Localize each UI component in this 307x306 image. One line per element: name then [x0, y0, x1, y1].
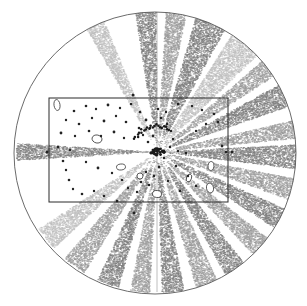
point-marker [148, 184, 151, 187]
point-marker [115, 115, 117, 117]
point-marker [123, 137, 125, 139]
point-marker [60, 132, 63, 135]
radiant-arc-dot [146, 126, 149, 129]
point-marker [88, 130, 91, 133]
point-marker [139, 111, 142, 114]
point-marker [169, 146, 172, 149]
radiant-core-dot [157, 154, 159, 156]
point-marker [177, 103, 180, 106]
point-marker [157, 108, 160, 111]
radiant-arc-dot [153, 125, 156, 128]
blob-marker [53, 99, 60, 111]
point-marker [95, 108, 97, 110]
point-marker [136, 191, 138, 193]
blob-marker [137, 173, 143, 179]
point-marker [177, 150, 179, 152]
point-marker [69, 149, 71, 151]
point-marker [145, 171, 147, 173]
point-marker [113, 131, 116, 134]
point-marker [140, 181, 143, 184]
point-marker [152, 135, 155, 138]
point-marker [195, 130, 197, 132]
radiant-core-dot [158, 150, 160, 152]
point-marker [195, 185, 198, 188]
point-marker [133, 212, 136, 215]
point-marker [130, 103, 133, 106]
point-marker [72, 188, 74, 190]
point-marker [179, 190, 182, 193]
figure-root [0, 0, 307, 306]
radiant-arc-dot [168, 129, 171, 132]
point-marker [73, 110, 76, 113]
radiant-core-dot [154, 153, 157, 156]
point-marker [127, 187, 129, 189]
point-marker [170, 130, 173, 133]
point-marker [85, 161, 87, 163]
radiant-core-dot [150, 152, 153, 155]
point-marker [231, 151, 234, 154]
point-marker [91, 117, 93, 119]
point-marker [142, 134, 144, 136]
point-marker [145, 119, 148, 122]
radiant-core-dot [160, 148, 162, 150]
radiant-arc-dot [138, 132, 141, 135]
point-marker [138, 127, 141, 130]
point-marker [213, 113, 216, 116]
point-marker [81, 193, 84, 196]
point-marker [165, 111, 167, 113]
point-marker [163, 157, 165, 159]
point-marker [221, 145, 224, 148]
point-marker [158, 166, 161, 169]
point-marker [201, 109, 203, 111]
point-marker [62, 160, 65, 163]
radiant-core-dot [152, 149, 154, 151]
point-marker [93, 190, 95, 192]
stipple-band-b01 [136, 11, 158, 142]
point-marker [74, 135, 76, 137]
radiant-core-dot [159, 153, 162, 156]
radiant-arc-dot [148, 127, 151, 130]
point-marker [57, 146, 60, 149]
point-marker [111, 172, 113, 174]
point-marker [172, 138, 174, 140]
radiant-arc-dot [140, 128, 143, 131]
radiant-core-dot [154, 147, 157, 150]
point-marker [68, 179, 71, 182]
point-marker [175, 165, 178, 168]
point-marker [78, 123, 81, 126]
stipple-band-b18 [39, 158, 151, 247]
point-marker [116, 200, 119, 203]
point-marker [107, 104, 110, 107]
point-marker [125, 121, 128, 124]
radiant-arc-dot [149, 125, 152, 128]
blob-marker [152, 190, 162, 198]
radiant-arc-dot [161, 127, 164, 130]
point-marker [167, 180, 169, 182]
point-marker [100, 135, 102, 137]
point-marker [85, 105, 88, 108]
point-marker [103, 195, 106, 198]
point-marker [187, 175, 189, 177]
radiant-core-dot [154, 151, 156, 153]
point-marker [65, 119, 67, 121]
point-marker [46, 151, 49, 154]
radiant-arc-dot [137, 136, 140, 139]
point-marker [166, 123, 168, 125]
point-marker [65, 169, 67, 171]
point-marker [205, 123, 207, 125]
point-marker [191, 105, 193, 107]
point-marker [153, 175, 155, 177]
point-marker [121, 179, 124, 182]
point-marker [217, 121, 220, 124]
blob-marker [116, 164, 125, 171]
radiant-arc-dot [140, 132, 143, 135]
radiant-arc-dot [165, 126, 168, 129]
radiant-core-dot [161, 150, 163, 152]
point-marker [185, 152, 188, 155]
plate-svg [0, 0, 307, 306]
point-marker [160, 117, 163, 120]
point-marker [147, 141, 150, 144]
point-marker [103, 120, 106, 123]
point-marker [119, 107, 121, 109]
point-marker [225, 151, 228, 154]
